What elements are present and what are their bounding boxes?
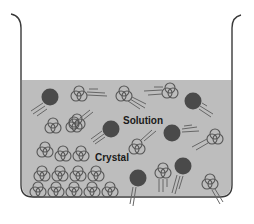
- crystallization-diagram: Solution Crystal: [0, 0, 254, 224]
- solution-label: Solution: [123, 116, 163, 126]
- crystal-label: Crystal: [95, 153, 129, 163]
- diagram-canvas: [0, 0, 254, 224]
